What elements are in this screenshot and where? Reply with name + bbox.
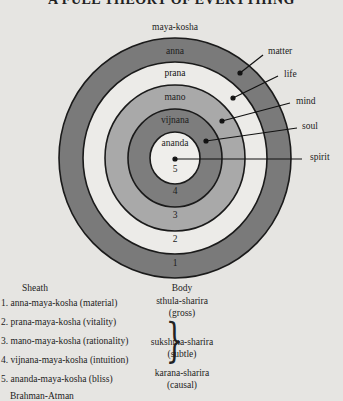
ring-number-2: 2 (173, 234, 178, 244)
body-karana: karana-sharira (155, 368, 209, 378)
annotation-matter: matter (268, 46, 292, 56)
sheath-1: 1. anna-maya-kosha (material) (1, 298, 117, 308)
header-sheath: Sheath (22, 283, 48, 293)
ring-number-1: 1 (173, 258, 178, 268)
sheath-3: 3. mano-maya-kosha (rationality) (1, 336, 128, 346)
ring-number-3: 3 (173, 210, 178, 220)
annotation-soul: soul (302, 121, 318, 131)
annotation-life: life (284, 69, 297, 79)
body-sthula-gloss: (gross) (169, 308, 195, 318)
body-sthula: sthula-sharira (156, 296, 208, 306)
outer-label: maya-kosha (152, 22, 198, 32)
ring-label-ananda: ananda (162, 138, 189, 148)
header-body: Body (172, 283, 193, 293)
sheath-4: 4. vijnana-maya-kosha (intuition) (1, 355, 128, 365)
body-karana-gloss: (causal) (167, 380, 197, 390)
sheath-2: 2. prana-maya-kosha (vitality) (1, 317, 116, 327)
brahman-atman: Brahman-Atman (10, 391, 74, 401)
annotation-mind: mind (296, 96, 316, 106)
body-sukshma-gloss: (subtle) (167, 349, 196, 359)
ring-label-prana: prana (164, 68, 185, 78)
sheath-5: 5. ananda-maya-kosha (bliss) (1, 374, 113, 384)
ring-number-4: 4 (173, 186, 178, 196)
ring-label-vijnana: vijnana (161, 115, 189, 125)
ring-label-anna: anna (166, 46, 184, 56)
ring-label-mano: mano (164, 92, 185, 102)
body-sukshma: sukshma-sharira (151, 337, 213, 347)
ring-number-5: 5 (173, 164, 178, 174)
annotation-spirit: spirit (310, 152, 330, 162)
